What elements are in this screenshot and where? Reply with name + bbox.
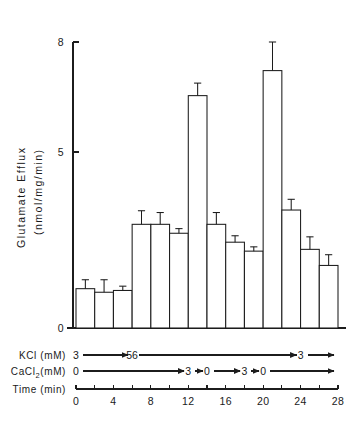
bar bbox=[244, 251, 263, 328]
bar-group bbox=[244, 247, 263, 328]
y-tick-label-5: 5 bbox=[58, 146, 64, 158]
time-axis-tick-label: 12 bbox=[182, 395, 194, 407]
bar-group bbox=[282, 199, 301, 328]
bar bbox=[207, 224, 226, 328]
bar bbox=[263, 71, 282, 328]
y-tick-label-0: 0 bbox=[58, 322, 64, 334]
time-axis-tick-label: 0 bbox=[73, 395, 79, 407]
bar-group bbox=[132, 211, 151, 328]
cacl2-label-main: CaCl bbox=[11, 366, 36, 377]
bar bbox=[301, 249, 320, 328]
y-tick-label-8: 8 bbox=[58, 36, 64, 48]
cacl2-segment-value: 0 bbox=[260, 365, 266, 377]
bar bbox=[76, 289, 95, 328]
time-axis-tick-label: 24 bbox=[294, 395, 306, 407]
cacl2-segment-value: 0 bbox=[204, 365, 210, 377]
cacl2-segment-value: 3 bbox=[242, 365, 248, 377]
bar bbox=[226, 242, 245, 328]
kcl-segment-value: 3 bbox=[73, 349, 79, 361]
time-axis-tick-label: 28 bbox=[332, 395, 344, 407]
y-axis-title-line1: Glutamate Efflux bbox=[15, 147, 27, 248]
bar-group bbox=[188, 83, 207, 328]
bar bbox=[151, 224, 170, 328]
time-axis-tick-label: 20 bbox=[257, 395, 269, 407]
bar-group bbox=[207, 213, 226, 328]
bar-group bbox=[151, 213, 170, 328]
bar bbox=[188, 96, 207, 328]
cacl2-segment-value: 3 bbox=[185, 365, 191, 377]
bar bbox=[319, 265, 338, 328]
glutamate-efflux-chart: Glutamate Efflux (nmol/mg/min) 8 5 0 KCl… bbox=[0, 0, 364, 432]
time-axis-tick-label: 16 bbox=[219, 395, 231, 407]
y-axis-title-line2: (nmol/mg/min) bbox=[32, 148, 44, 235]
bar bbox=[95, 292, 114, 328]
kcl-segment-value: 56 bbox=[126, 349, 138, 361]
bar bbox=[170, 233, 189, 328]
cacl2-segment-value: 0 bbox=[73, 365, 79, 377]
time-axis-tick-label: 4 bbox=[110, 395, 116, 407]
bar bbox=[113, 290, 132, 328]
time-row-label: Time (min) bbox=[13, 384, 66, 395]
bar-group bbox=[170, 229, 189, 328]
bar bbox=[132, 224, 151, 328]
cacl2-label-tail: (mM) bbox=[40, 366, 66, 377]
bar-group bbox=[319, 255, 338, 328]
kcl-segment-value: 3 bbox=[298, 349, 304, 361]
time-axis-tick-label: 8 bbox=[148, 395, 154, 407]
kcl-row-label: KCl (mM) bbox=[19, 350, 66, 361]
bar bbox=[282, 210, 301, 328]
bar-group bbox=[226, 236, 245, 328]
figure-container: Glutamate Efflux (nmol/mg/min) 8 5 0 KCl… bbox=[0, 0, 364, 432]
bar-group bbox=[113, 286, 132, 328]
bar-group bbox=[301, 237, 320, 328]
bar-group bbox=[263, 42, 282, 328]
